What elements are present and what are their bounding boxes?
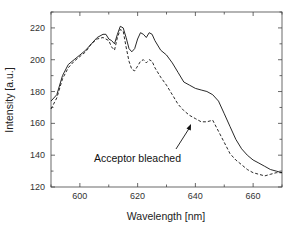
x-tick-label: 660 xyxy=(246,191,261,201)
y-axis-label: Intensity [a.u.] xyxy=(3,67,15,132)
y-tick-label: 220 xyxy=(30,23,45,33)
y-tick-label: 200 xyxy=(30,55,45,65)
x-tick-label: 600 xyxy=(72,191,87,201)
x-tick-label: 640 xyxy=(188,191,203,201)
y-tick-label: 180 xyxy=(30,87,45,97)
spectrum-chart: 600620640660 120140160180200220 Waveleng… xyxy=(0,0,296,230)
solid-series-line xyxy=(51,26,282,172)
y-tick-label: 140 xyxy=(30,150,45,160)
y-tick-label: 120 xyxy=(30,182,45,192)
x-axis-ticks: 600620640660 xyxy=(51,12,282,201)
annotation-arrow xyxy=(176,124,191,149)
x-tick-label: 620 xyxy=(130,191,145,201)
y-tick-label: 160 xyxy=(30,118,45,128)
x-axis-label: Wavelength [nm] xyxy=(127,210,205,222)
y-axis-ticks: 120140160180200220 xyxy=(30,12,282,192)
annotation-text: Acceptor bleached xyxy=(94,152,181,164)
